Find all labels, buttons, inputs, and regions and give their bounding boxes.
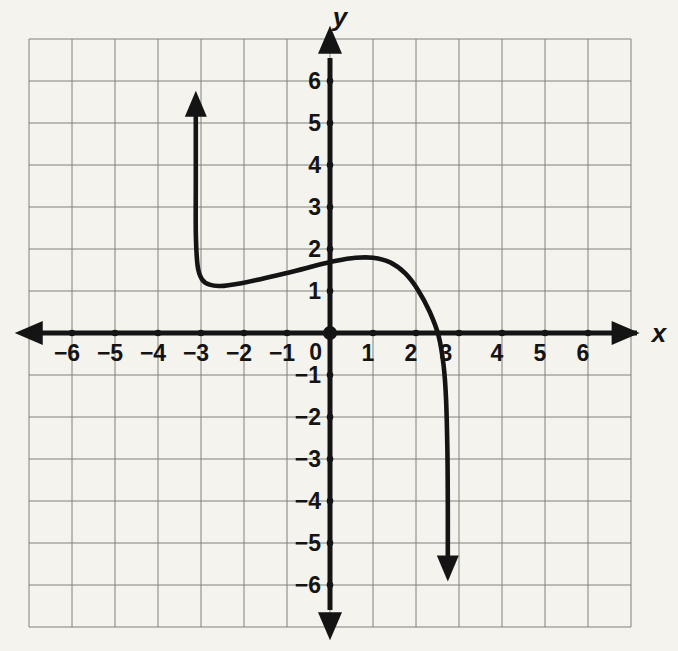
y-tick-label: −5 [295, 530, 321, 556]
x-tick-label: 2 [405, 340, 418, 366]
x-tick-dot [284, 330, 291, 337]
y-tick-dot [327, 540, 334, 547]
y-tick-label: 3 [308, 194, 321, 220]
y-tick-dot [327, 246, 334, 253]
x-tick-label: −6 [54, 340, 80, 366]
x-tick-dot [370, 330, 377, 337]
x-tick-label: −5 [97, 340, 123, 366]
x-tick-dot [456, 330, 463, 337]
y-axis-label: y [331, 2, 349, 32]
y-tick-label: 5 [308, 110, 321, 136]
y-tick-label: −6 [295, 572, 321, 598]
y-tick-label: −3 [295, 446, 321, 472]
y-tick-dot [327, 372, 334, 379]
y-tick-label: −1 [295, 362, 321, 388]
y-tick-dot [327, 414, 334, 421]
x-tick-label: 6 [577, 340, 590, 366]
x-tick-dot [499, 330, 506, 337]
x-tick-dot [585, 330, 592, 337]
x-tick-label: −4 [140, 340, 166, 366]
origin-label: 0 [309, 339, 322, 365]
y-tick-dot [327, 78, 334, 85]
origin-dot [323, 326, 337, 340]
coordinate-plane-figure: −6−5−4−3−2−1123456−6−5−4−3−2−11234560yx [0, 0, 678, 651]
x-tick-dot [69, 330, 76, 337]
y-tick-dot [327, 162, 334, 169]
x-tick-dot [112, 330, 119, 337]
y-tick-label: 6 [308, 68, 321, 94]
x-tick-label: 1 [362, 340, 375, 366]
figure-background [0, 0, 678, 651]
x-tick-dot [241, 330, 248, 337]
y-tick-dot [327, 204, 334, 211]
x-tick-label: −2 [226, 340, 252, 366]
x-tick-dot [198, 330, 205, 337]
x-tick-label: −3 [183, 340, 209, 366]
x-tick-label: 4 [491, 340, 504, 366]
x-tick-dot [155, 330, 162, 337]
x-tick-dot [413, 330, 420, 337]
y-tick-dot [327, 456, 334, 463]
y-tick-label: −2 [295, 404, 321, 430]
y-tick-dot [327, 582, 334, 589]
y-tick-label: 4 [308, 152, 321, 178]
x-tick-label: 5 [534, 340, 547, 366]
x-tick-label: −1 [269, 340, 295, 366]
y-tick-dot [327, 498, 334, 505]
x-tick-dot [542, 330, 549, 337]
x-axis-label: x [650, 318, 668, 348]
y-tick-label: 2 [308, 236, 321, 262]
y-tick-dot [327, 120, 334, 127]
y-tick-label: −4 [295, 488, 321, 514]
y-tick-label: 1 [308, 278, 321, 304]
plot-svg: −6−5−4−3−2−1123456−6−5−4−3−2−11234560yx [0, 0, 678, 651]
y-tick-dot [327, 288, 334, 295]
